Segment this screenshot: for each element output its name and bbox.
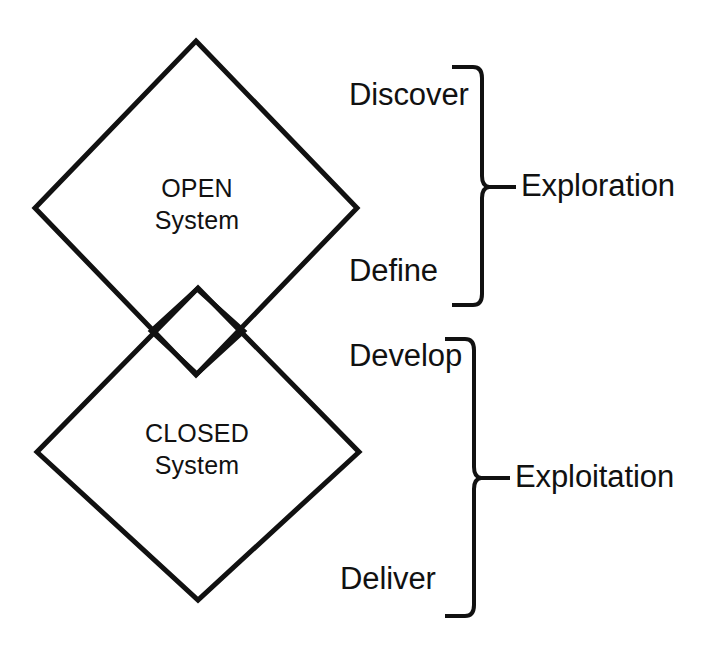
open-system-label: OPEN System <box>117 176 277 233</box>
overlap-diamond <box>151 289 244 374</box>
exploitation-brace <box>445 339 481 616</box>
group-label-exploration: Exploration <box>521 170 675 201</box>
closed-system-label: CLOSED System <box>117 421 277 478</box>
phase-label-discover: Discover <box>349 79 469 110</box>
phase-label-deliver: Deliver <box>340 563 436 594</box>
closed-system-label-line2: System <box>117 453 277 478</box>
phase-label-develop: Develop <box>349 340 462 371</box>
closed-system-label-line1: CLOSED <box>117 421 277 446</box>
phase-label-define: Define <box>349 255 438 286</box>
group-label-exploitation: Exploitation <box>515 461 674 492</box>
open-system-label-line1: OPEN <box>117 176 277 201</box>
open-system-label-line2: System <box>117 208 277 233</box>
diagram-canvas: OPEN System CLOSED System Discover Defin… <box>0 0 707 653</box>
